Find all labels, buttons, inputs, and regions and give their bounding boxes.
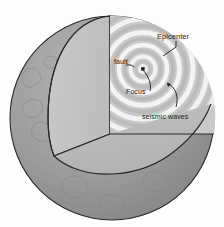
label-seismic-waves: seismic waves [142, 113, 189, 120]
focus-point-marker [141, 67, 144, 70]
label-focus: Focus [126, 88, 146, 95]
label-epicenter: Epicenter [157, 32, 190, 41]
earthquake-cutaway-diagram: Epicenter fault Focus seismic waves [0, 0, 224, 227]
label-fault: fault [114, 58, 128, 65]
diagram-canvas: Epicenter fault Focus seismic waves [0, 0, 224, 227]
